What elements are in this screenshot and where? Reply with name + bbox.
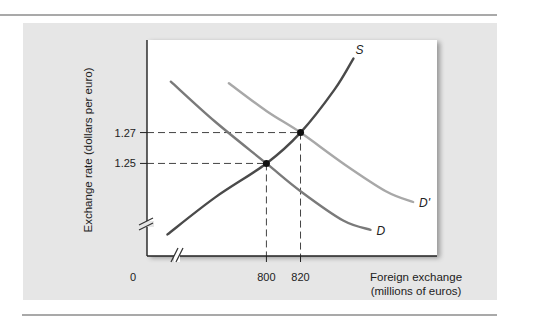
exchange-rate-chart: 1.251.27 800820 0 Exchange rate (dollars… — [0, 0, 547, 325]
equilibrium-point-1 — [297, 129, 304, 136]
x-axis-title-line1: Foreign exchange — [370, 271, 462, 283]
x-tick-label-0: 800 — [257, 271, 275, 283]
x-axis-title-line2: (millions of euros) — [371, 285, 462, 297]
x-tick-label-1: 820 — [291, 271, 309, 283]
y-axis-title: Exchange rate (dollars per euro) — [82, 67, 94, 232]
equilibrium-point-0 — [263, 160, 270, 167]
y-tick-label-1: 1.27 — [115, 127, 136, 139]
curve-label-s: S — [355, 43, 363, 57]
plot-area — [147, 40, 437, 256]
origin-label: 0 — [130, 271, 136, 283]
curve-label-d-prime: D' — [419, 196, 431, 210]
y-tick-label-0: 1.25 — [115, 157, 136, 169]
curve-label-d: D — [376, 224, 385, 238]
